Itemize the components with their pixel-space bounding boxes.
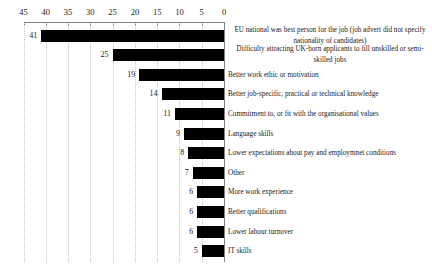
- x-tick-label: 40: [35, 6, 57, 18]
- bar-value-label: 14: [134, 88, 158, 100]
- x-tick-label: 30: [79, 6, 101, 18]
- category-label: More work experience: [228, 187, 432, 198]
- bar: [193, 167, 224, 179]
- bar-value-label: 41: [13, 30, 37, 42]
- x-tick-label: 25: [102, 6, 124, 18]
- bar: [175, 108, 224, 120]
- category-label: Lower expectations about pay and employm…: [228, 148, 432, 159]
- bar: [139, 69, 224, 81]
- bar-value-label: 6: [169, 186, 193, 198]
- bar-value-label: 9: [156, 128, 180, 140]
- category-label: Commitment to, or fit with the organisat…: [228, 108, 432, 119]
- category-label: Language skills: [228, 128, 432, 139]
- category-label: Difficulty attracting UK-born applicants…: [228, 44, 432, 66]
- category-label: IT skills: [228, 246, 432, 257]
- bar: [184, 128, 224, 140]
- bar-value-label: 6: [169, 206, 193, 218]
- bar: [188, 147, 224, 159]
- bar: [162, 88, 224, 100]
- y-axis-line: [224, 22, 225, 262]
- vertical-gridline: [68, 23, 69, 262]
- bar: [197, 186, 224, 198]
- bar: [113, 49, 224, 61]
- x-tick-label: 15: [146, 6, 168, 18]
- bar-value-label: 8: [160, 147, 184, 159]
- bar-value-label: 5: [174, 245, 198, 257]
- bar: [41, 30, 224, 42]
- x-tick-label: 45: [13, 6, 35, 18]
- x-tick-label: 20: [124, 6, 146, 18]
- category-label: Better work ethic or motivation: [228, 69, 432, 80]
- bar-value-label: 11: [147, 108, 171, 120]
- bar-value-label: 7: [165, 167, 189, 179]
- x-tick-label: 10: [168, 6, 190, 18]
- vertical-gridline: [24, 23, 25, 262]
- bar: [202, 245, 224, 257]
- x-tick-label: 35: [57, 6, 79, 18]
- bar: [197, 206, 224, 218]
- category-label: Lower labour turnover: [228, 226, 432, 237]
- x-tick-label: 0: [213, 6, 235, 18]
- bar-chart: 45403530252015105041EU national was best…: [0, 0, 432, 272]
- bar-value-label: 19: [111, 69, 135, 81]
- bar: [197, 226, 224, 238]
- bar-value-label: 25: [85, 49, 109, 61]
- category-label: Other: [228, 167, 432, 178]
- vertical-gridline: [46, 23, 47, 262]
- category-label: Better job-specific, practical or techni…: [228, 89, 432, 100]
- x-axis-line: [24, 22, 226, 23]
- bar-value-label: 6: [169, 226, 193, 238]
- x-tick-label: 5: [191, 6, 213, 18]
- category-label: Better qualifications: [228, 206, 432, 217]
